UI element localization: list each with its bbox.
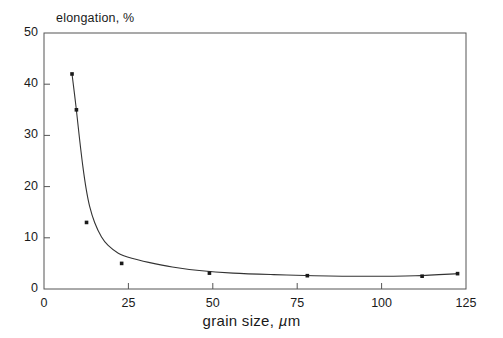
x-tick-label: 100 xyxy=(362,296,402,310)
data-points xyxy=(70,72,459,278)
mu-symbol: µ xyxy=(279,312,288,329)
x-axis-title-main: grain size, xyxy=(203,312,279,329)
x-tick-label: 75 xyxy=(277,296,317,310)
x-tick-label: 50 xyxy=(193,296,233,310)
y-tick-label: 10 xyxy=(8,230,38,244)
x-tick-label: 25 xyxy=(108,296,148,310)
y-tick-label: 0 xyxy=(8,281,38,295)
x-tick-label: 125 xyxy=(446,296,486,310)
plot-frame xyxy=(44,33,466,289)
trend-line xyxy=(72,74,458,276)
plot-canvas xyxy=(0,0,503,338)
y-tick-label: 50 xyxy=(8,25,38,39)
y-tick-label: 20 xyxy=(8,179,38,193)
y-tick-label: 30 xyxy=(8,127,38,141)
y-tick-label: 40 xyxy=(8,76,38,90)
axis-ticks xyxy=(44,84,382,289)
x-tick-label: 0 xyxy=(24,296,64,310)
y-axis-title: elongation, % xyxy=(56,11,134,25)
x-axis-title: grain size, µm xyxy=(0,312,503,329)
chart-figure: elongation, % 50403020100 0255075100125 … xyxy=(0,0,503,338)
x-axis-title-tail: m xyxy=(288,312,301,329)
